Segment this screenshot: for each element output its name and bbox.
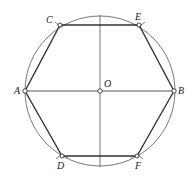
label-O: O [104,79,111,89]
label-C: C [46,15,53,25]
point-B [172,89,176,93]
point-C [58,23,62,27]
label-F: F [135,161,141,171]
point-D [60,154,64,158]
point-O [98,89,102,93]
hexagon-circle-diagram [0,0,195,186]
point-A [23,89,27,93]
label-D: D [57,161,64,171]
vertex-points [23,23,176,158]
point-F [135,154,139,158]
label-A: A [14,86,20,96]
point-E [137,23,141,27]
label-E: E [135,12,141,22]
label-B: B [178,86,184,96]
